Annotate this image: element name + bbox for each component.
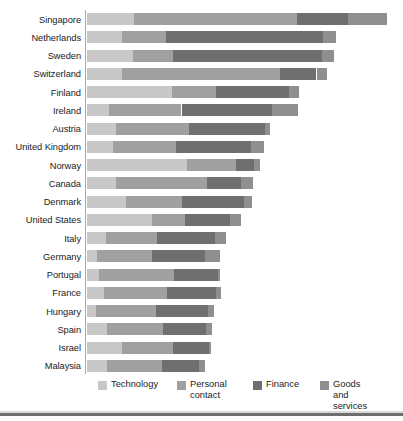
bar-segment-goods-and-services [251, 141, 263, 153]
bar-track [87, 123, 387, 135]
bar-track [87, 50, 387, 62]
bar-segment-goods-and-services [244, 196, 252, 208]
category-label: United States [0, 215, 81, 225]
category-label: Malaysia [0, 361, 81, 371]
bar-segment-technology [87, 104, 109, 116]
bar-segment-finance [176, 141, 251, 153]
bar-segment-finance [280, 68, 317, 80]
bar-row: Italy [0, 229, 403, 248]
bar-segment-technology [87, 177, 116, 189]
bar-track [87, 31, 387, 43]
bar-row: Norway [0, 156, 403, 175]
category-label: Norway [0, 161, 81, 171]
bar-row: Canada [0, 174, 403, 193]
bar-segment-technology [87, 50, 133, 62]
bar-segment-goods-and-services [218, 269, 221, 281]
legend-swatch-icon [98, 381, 107, 390]
bar-segment-technology [87, 305, 96, 317]
bar-segment-technology [87, 342, 122, 354]
category-label: Switzerland [0, 69, 81, 79]
bar-track [87, 323, 387, 335]
bar-segment-finance [167, 287, 216, 299]
bar-track [87, 13, 387, 25]
bar-track [87, 342, 387, 354]
bar-segment-goods-and-services [241, 177, 253, 189]
bar-segment-personal-contact [172, 86, 216, 98]
bar-segment-goods-and-services [254, 159, 260, 171]
bar-segment-technology [87, 196, 126, 208]
bar-row: Singapore [0, 10, 403, 29]
legend-swatch-icon [320, 381, 329, 390]
bar-segment-technology [87, 287, 104, 299]
bar-segment-goods-and-services [216, 287, 221, 299]
legend-label: Finance [266, 379, 299, 390]
bar-segment-goods-and-services [209, 342, 211, 354]
bar-segment-personal-contact [133, 50, 174, 62]
bar-segment-finance [182, 196, 244, 208]
bar-segment-goods-and-services [317, 68, 328, 80]
bar-segment-finance [152, 250, 205, 262]
bar-row: Netherlands [0, 28, 403, 47]
bar-segment-finance [163, 323, 206, 335]
bar-track [87, 360, 387, 372]
bar-segment-personal-contact [107, 360, 163, 372]
bar-row: Spain [0, 320, 403, 339]
bar-segment-technology [87, 159, 187, 171]
bar-segment-finance [297, 13, 347, 25]
category-label: United Kingdom [0, 142, 81, 152]
bar-segment-goods-and-services [230, 214, 241, 226]
bar-segment-personal-contact [106, 232, 157, 244]
bar-segment-personal-contact [122, 342, 174, 354]
bar-segment-goods-and-services [289, 86, 299, 98]
category-label: Hungary [0, 307, 81, 317]
bar-segment-technology [87, 31, 122, 43]
bar-track [87, 159, 387, 171]
bar-segment-personal-contact [126, 196, 182, 208]
bar-segment-personal-contact [96, 305, 156, 317]
bar-track [87, 214, 387, 226]
category-label: France [0, 288, 81, 298]
bar-row: Switzerland [0, 65, 403, 84]
legend-label: Personal contact [190, 379, 227, 401]
bar-segment-goods-and-services [199, 360, 205, 372]
bar-segment-personal-contact [99, 269, 174, 281]
bar-segment-finance [189, 123, 265, 135]
bar-track [87, 141, 387, 153]
bar-track [87, 305, 387, 317]
category-label: Italy [0, 234, 81, 244]
category-label: Portugal [0, 270, 81, 280]
bar-segment-personal-contact [109, 104, 182, 116]
bar-segment-finance [157, 232, 216, 244]
bar-segment-personal-contact [107, 323, 163, 335]
bar-segment-finance [173, 342, 208, 354]
bar-segment-personal-contact [104, 287, 167, 299]
category-label: Ireland [0, 106, 81, 116]
bar-row: Germany [0, 247, 403, 266]
bar-segment-personal-contact [116, 177, 208, 189]
bar-track [87, 232, 387, 244]
bar-segment-technology [87, 141, 113, 153]
bar-row: United States [0, 211, 403, 230]
legend-label: Goods and services [333, 379, 367, 412]
legend-label: Technology [111, 379, 158, 390]
legend-swatch-icon [177, 381, 186, 390]
bar-segment-finance [156, 305, 208, 317]
bar-segment-goods-and-services [323, 31, 336, 43]
bar-segment-personal-contact [122, 31, 166, 43]
bar-track [87, 68, 387, 80]
bar-segment-technology [87, 123, 116, 135]
bar-segment-finance [216, 86, 289, 98]
category-label: Canada [0, 179, 81, 189]
bar-segment-technology [87, 68, 122, 80]
bar-segment-personal-contact [113, 141, 176, 153]
stacked-bar-chart: SingaporeNetherlandsSwedenSwitzerlandFin… [0, 0, 403, 421]
bar-segment-finance [236, 159, 254, 171]
legend-swatch-icon [253, 381, 262, 390]
y-axis-line [85, 10, 86, 374]
bar-segment-goods-and-services [205, 250, 220, 262]
chart-legend: TechnologyPersonal contactFinanceGoods a… [0, 379, 403, 407]
bar-row: Austria [0, 120, 403, 139]
bar-track [87, 250, 387, 262]
bar-row: Ireland [0, 101, 403, 120]
bar-segment-finance [182, 104, 272, 116]
